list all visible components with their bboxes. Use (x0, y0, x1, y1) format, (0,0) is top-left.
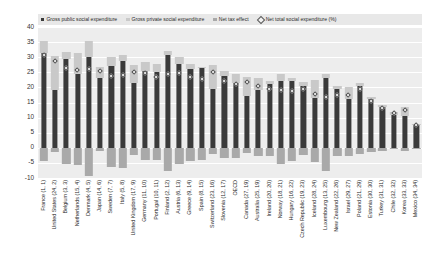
bar-group[interactable] (207, 27, 218, 178)
bar-group[interactable] (230, 27, 241, 178)
bar-segment-gross-public (244, 96, 249, 148)
x-axis-tick-label: New Zealand (22, 26) (335, 180, 340, 232)
x-axis-tick: Israel (29, 27) (343, 180, 354, 276)
bar-group[interactable] (286, 27, 297, 178)
bar-segment-net-tax-effect (265, 148, 273, 156)
x-axis-tick-label: Sweden (7, 7) (109, 180, 114, 214)
bar-segment-gross-private (175, 57, 183, 64)
bar-group[interactable] (388, 27, 399, 178)
bar-group[interactable] (94, 27, 105, 178)
bar-group[interactable] (320, 27, 331, 178)
bar-segment-gross-public (267, 84, 272, 147)
x-axis-tick-label: United Kingdom (17, 9) (131, 180, 136, 235)
bar-group[interactable] (83, 27, 94, 178)
social-expenditure-chart: Gross public social expenditureGross pri… (0, 0, 424, 276)
x-axis-tick-label: Australia (25, 19) (256, 180, 261, 221)
bar-segment-gross-private (152, 64, 160, 71)
bar-group[interactable] (185, 27, 196, 178)
x-axis-tick-label: Estonia (30, 30) (368, 180, 373, 218)
bar-segment-gross-public (75, 74, 80, 147)
x-axis-tick: Italy (5, 8) (117, 180, 128, 276)
bar-segment-net-tax-effect (243, 148, 251, 153)
bar-group[interactable] (117, 27, 128, 178)
bar-group[interactable] (275, 27, 286, 178)
bar-group[interactable] (332, 27, 343, 178)
bar-group[interactable] (162, 27, 173, 178)
bar-group[interactable] (151, 27, 162, 178)
x-axis: France (1, 1)United States (24, 2)Belgiu… (38, 180, 422, 276)
bar-group[interactable] (49, 27, 60, 178)
bar-segment-gross-public (52, 90, 57, 147)
bar-group[interactable] (354, 27, 365, 178)
bar-segment-gross-public (414, 125, 419, 148)
y-axis-tick-label: 5 (0, 129, 34, 135)
x-axis-tick-label: Hungary (16, 22) (289, 180, 294, 220)
bar-group[interactable] (241, 27, 252, 178)
bar-segment-gross-public (301, 86, 306, 148)
x-axis-tick-label: Greece (9, 14) (188, 180, 193, 215)
x-axis-tick: Japan (14, 6) (94, 180, 105, 276)
bar-segment-net-tax-effect (390, 148, 398, 150)
bar-group[interactable] (38, 27, 49, 178)
bar-segment-net-tax-effect (401, 148, 409, 151)
x-axis-tick: Australia (25, 19) (253, 180, 264, 276)
bar-group[interactable] (377, 27, 388, 178)
bar-group[interactable] (253, 27, 264, 178)
bar-segment-net-tax-effect (62, 148, 70, 164)
bar-group[interactable] (366, 27, 377, 178)
x-axis-tick: Poland (21, 29) (354, 180, 365, 276)
x-axis-tick: France (1, 1) (38, 180, 49, 276)
bar-group[interactable] (174, 27, 185, 178)
x-axis-tick-label: Belgium (3, 3) (64, 180, 69, 214)
bar-segment-gross-public (210, 89, 215, 148)
bar-segment-net-tax-effect (96, 148, 104, 151)
bar-segment-gross-public (188, 69, 193, 148)
y-axis-tick-label: 25 (0, 69, 34, 75)
y-axis-tick-label: 35 (0, 39, 34, 45)
bar-group[interactable] (343, 27, 354, 178)
bar-group[interactable] (264, 27, 275, 178)
bar-segment-net-tax-effect (85, 148, 93, 176)
x-axis-tick-label: Israel (29, 27) (346, 180, 351, 213)
bar-group[interactable] (196, 27, 207, 178)
bar-group[interactable] (411, 27, 422, 178)
bar-segment-gross-public (380, 107, 385, 148)
bar-group[interactable] (128, 27, 139, 178)
x-axis-tick: Netherlands (15, 4) (72, 180, 83, 276)
x-axis-tick-label: Canada (27, 19) (244, 180, 249, 219)
x-axis-tick-label: Germany (11, 10) (143, 180, 148, 222)
x-axis-tick-label: Korea (33, 33) (402, 180, 407, 214)
bar-segment-gross-private (107, 57, 115, 66)
x-axis-tick: Denmark (4, 5) (83, 180, 94, 276)
bar-group[interactable] (298, 27, 309, 178)
bar-segment-gross-public (346, 99, 351, 147)
bar-segment-net-tax-effect (39, 148, 47, 162)
bar-segment-net-tax-effect (107, 148, 115, 168)
x-axis-tick: Belgium (3, 3) (61, 180, 72, 276)
x-axis-tick: Luxembourg (13, 25) (320, 180, 331, 276)
bar-segment-gross-public (233, 83, 238, 148)
y-axis-tick-label: 15 (0, 99, 34, 105)
bar-group[interactable] (399, 27, 410, 178)
bar-segment-net-tax-effect (186, 148, 194, 161)
bar-segment-net-tax-effect (51, 148, 59, 153)
bar-group[interactable] (219, 27, 230, 178)
bar-group[interactable] (72, 27, 83, 178)
x-axis-tick-label: Denmark (4, 5) (86, 180, 91, 216)
bar-segment-gross-public (335, 89, 340, 148)
bar-segment-net-tax-effect (356, 148, 364, 155)
y-axis-tick-label: 40 (0, 24, 34, 30)
bar-segment-gross-private (277, 74, 285, 81)
bar-group[interactable] (309, 27, 320, 178)
bar-group[interactable] (140, 27, 151, 178)
bar-segment-net-tax-effect (141, 148, 149, 160)
x-axis-tick-label: Luxembourg (13, 25) (323, 180, 328, 230)
x-axis-tick: Iceland (28, 24) (309, 180, 320, 276)
x-axis-tick-label: Norway (18, 21) (278, 180, 283, 218)
bar-group[interactable] (61, 27, 72, 178)
x-axis-tick-label: Netherlands (15, 4) (75, 180, 80, 226)
bar-group[interactable] (106, 27, 117, 178)
x-axis-tick-label: Iceland (28, 24) (312, 180, 317, 217)
bar-segment-net-tax-effect (277, 148, 285, 164)
x-axis-tick: Hungary (16, 22) (286, 180, 297, 276)
